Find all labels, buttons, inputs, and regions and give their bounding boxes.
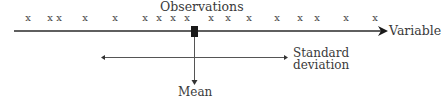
- observation-marker: x: [170, 12, 176, 24]
- sd-left-arrowhead-icon: [101, 55, 105, 60]
- observation-marker: x: [314, 12, 320, 24]
- observation-marker: x: [156, 12, 162, 24]
- observation-marker: x: [112, 12, 118, 24]
- observation-marker: x: [56, 12, 62, 24]
- observation-marker: x: [82, 12, 88, 24]
- observation-marker: x: [142, 12, 148, 24]
- sd-right-arrowhead-icon: [284, 55, 288, 60]
- observation-marker: x: [246, 12, 252, 24]
- observation-marker: x: [25, 12, 31, 24]
- observation-marker: x: [208, 12, 214, 24]
- diagram-canvas: Observations Variable Standard deviation…: [0, 0, 443, 101]
- observation-marker: x: [225, 12, 231, 24]
- observation-marker: x: [372, 12, 378, 24]
- variable-axis-label: Variable: [389, 24, 441, 37]
- observation-marker: x: [343, 12, 349, 24]
- mean-label: Mean: [178, 86, 212, 99]
- observation-marker: x: [274, 12, 280, 24]
- observation-marker: x: [184, 12, 190, 24]
- observation-marker: x: [297, 12, 303, 24]
- sd-label-line2: deviation: [293, 59, 349, 72]
- mean-marker: [191, 26, 198, 37]
- observation-marker: x: [47, 12, 53, 24]
